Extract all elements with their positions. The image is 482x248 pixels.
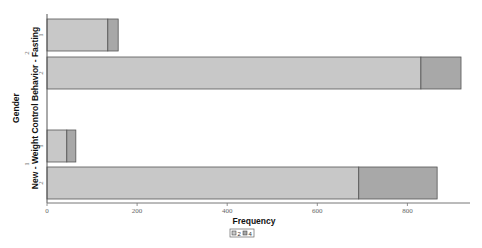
x-tick-label: 600 <box>312 207 323 215</box>
legend-swatch-4 <box>243 231 247 235</box>
stacked-bar-chart: 0200400600800 122121 Frequency New - Wei… <box>0 0 482 248</box>
bars-layer <box>47 19 461 199</box>
y-axis-title-inner: Gender <box>11 92 21 122</box>
bar-segment <box>47 130 67 162</box>
x-tick-label: 800 <box>402 207 413 215</box>
y-axis-title-outer: New - Weight Control Behavior - Fasting <box>30 27 40 189</box>
x-tick-label: 400 <box>222 207 233 215</box>
x-tick-label: 200 <box>132 207 143 215</box>
legend-swatch-2 <box>232 231 236 235</box>
bar-segment <box>47 19 108 51</box>
bar-segment <box>421 57 461 89</box>
x-axis-title: Frequency <box>233 216 276 226</box>
legend: 2 4 <box>230 229 254 237</box>
bar-segment <box>47 57 421 89</box>
bar-segment <box>108 19 118 51</box>
bar-segment <box>47 167 359 199</box>
x-ticks: 0200400600800 <box>45 203 413 215</box>
bar-segment <box>67 130 76 162</box>
x-tick-label: 0 <box>45 207 49 215</box>
bar-segment <box>359 167 437 199</box>
